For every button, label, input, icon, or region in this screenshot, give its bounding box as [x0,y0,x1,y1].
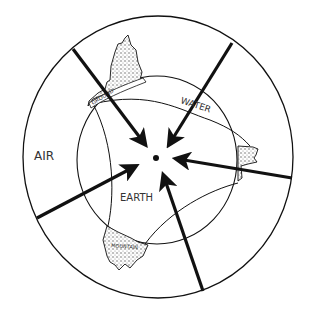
arrow-water-top-right [170,43,232,143]
center-dot [153,155,159,161]
boundary-curve-left [93,104,112,230]
arrow-right [178,159,292,178]
boundary-curve-lower [145,183,238,244]
label-earth: EARTH [120,192,153,203]
label-water: WATER [179,95,212,114]
arrow-bottom [164,177,203,291]
water-notch-shape [238,146,258,181]
label-air: AIR [34,149,54,163]
elements-diagram: GROUND MOUNTAIN AIR WATER EARTH [0,0,309,313]
